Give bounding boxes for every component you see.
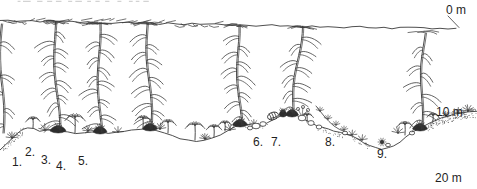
specimen-label-7: 7. — [271, 135, 281, 149]
water-surface — [0, 16, 459, 29]
specimen-label-4: 4. — [56, 159, 66, 173]
holdfasts — [50, 108, 428, 135]
specimen-label-3: 3. — [41, 153, 51, 167]
specimen-label-2: 2. — [25, 145, 35, 159]
specimen-label-6: 6. — [253, 135, 263, 149]
depth-label-20m: 20 m — [435, 171, 462, 185]
kelp-forest-illustration: 1. 2. 3. 4. 5. 6. 7. 8. 9. 0 m 10 m 20 m — [0, 0, 477, 189]
giant-kelp-plants — [0, 22, 441, 136]
specimen-label-9: 9. — [377, 147, 387, 161]
specimen-label-5: 5. — [78, 154, 88, 168]
line-art — [0, 1, 477, 150]
depth-label-10m: 10 m — [436, 105, 463, 119]
specimen-label-1: 1. — [12, 155, 22, 169]
specimen-label-8: 8. — [325, 135, 335, 149]
depth-scale: 0 m 10 m 20 m — [435, 3, 466, 185]
surface-canopy — [3, 18, 439, 34]
kelp-forest-figure: 1. 2. 3. 4. 5. 6. 7. 8. 9. 0 m 10 m 20 m — [0, 0, 477, 189]
depth-label-0m: 0 m — [446, 3, 466, 17]
